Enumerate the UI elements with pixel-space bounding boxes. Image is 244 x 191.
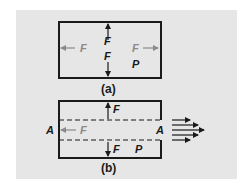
label-pressure-a: P bbox=[132, 58, 139, 70]
caption-a: (a) bbox=[101, 82, 116, 96]
caption-b: (b) bbox=[101, 161, 116, 175]
label-right-force-a: F bbox=[132, 42, 139, 54]
label-left-force-a: F bbox=[80, 42, 87, 54]
label-right-area-b: A bbox=[156, 124, 164, 136]
label-up-force-b: F bbox=[113, 103, 120, 115]
label-down-force-b: F bbox=[113, 143, 120, 155]
label-pressure-b: P bbox=[135, 143, 142, 155]
label-left-force-b: F bbox=[80, 124, 87, 136]
label-down-force-a: F bbox=[104, 50, 111, 62]
label-left-area-b: A bbox=[46, 124, 54, 136]
label-up-force-a: F bbox=[104, 35, 111, 47]
